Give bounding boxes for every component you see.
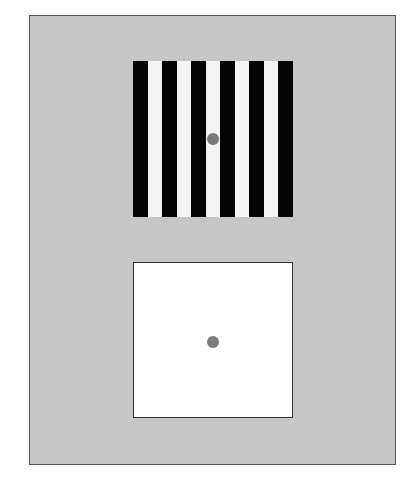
grating-stripe-white xyxy=(177,61,192,217)
grating-stripe-black xyxy=(133,61,148,217)
grating-stripe-black xyxy=(191,61,206,217)
fixation-dot-bottom xyxy=(207,336,219,348)
grating-stripe-black xyxy=(278,61,293,217)
grating-stripe-white xyxy=(264,61,279,217)
grating-stripe-black xyxy=(249,61,264,217)
fixation-dot-top xyxy=(207,133,219,145)
grating-stripe-white xyxy=(148,61,163,217)
grating-stripe-white xyxy=(235,61,250,217)
grating-stripe-black xyxy=(220,61,235,217)
grating-stripe-black xyxy=(162,61,177,217)
